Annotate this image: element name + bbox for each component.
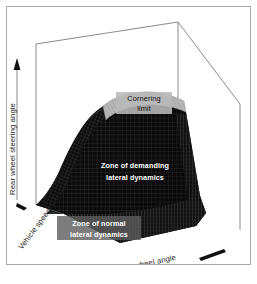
vehicle-speed-axis: Vehicle speed <box>16 203 53 251</box>
rear-wheel-steering-angle-axis: Rear wheel steering angle <box>8 58 20 200</box>
demanding-zone-line1: Zone of demanding <box>101 161 169 170</box>
normal-zone-line1: Zone of normal <box>72 219 125 228</box>
figure-container: Cornering limit Zone of demanding latera… <box>0 0 257 284</box>
up-left-arrow-icon <box>16 203 27 211</box>
cornering-limit-line2: limit <box>137 104 151 113</box>
demanding-zone-line2: lateral dynamics <box>106 173 164 182</box>
cornering-limit-line1: Cornering <box>127 94 160 103</box>
steering-wheel-angle-label: Steering wheel angle <box>103 253 177 277</box>
cornering-limit-label: Cornering limit <box>116 92 172 114</box>
up-arrow-icon <box>14 58 21 70</box>
normal-zone-label: Zone of normal lateral dynamics <box>57 216 141 240</box>
rear-wheel-steering-angle-label: Rear wheel steering angle <box>8 103 17 195</box>
vehicle-speed-label: Vehicle speed <box>16 206 53 251</box>
surface-plot: Cornering limit Zone of demanding latera… <box>0 0 257 284</box>
right-arrow-icon <box>199 249 226 261</box>
normal-zone-line2: lateral dynamics <box>70 230 128 239</box>
